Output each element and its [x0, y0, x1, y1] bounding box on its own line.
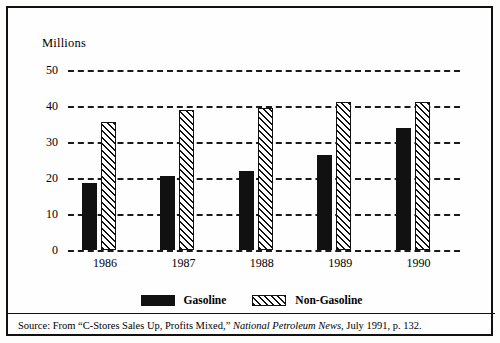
- x-axis-tick-label: 1986: [68, 256, 142, 271]
- source-note: Source: From “C-Stores Sales Up, Profits…: [18, 320, 422, 331]
- bar-non-gasoline-1989: [336, 102, 351, 250]
- source-divider: [8, 313, 495, 314]
- y-axis-tick-label: 50: [24, 64, 58, 76]
- legend-label-non-gasoline: Non-Gasoline: [295, 294, 362, 306]
- bar-non-gasoline-1988: [258, 108, 273, 250]
- x-axis-tick-label: 1988: [225, 256, 299, 271]
- source-suffix: , July 1991, p. 132.: [341, 320, 422, 331]
- bar-group: [303, 70, 377, 250]
- bar-gasoline-1987: [160, 176, 175, 250]
- bar-gasoline-1986: [82, 183, 97, 250]
- chart-figure: Millions 01020304050 1986198719881989199…: [0, 0, 500, 343]
- y-axis-title: Millions: [42, 36, 86, 51]
- y-axis-tick-label: 0: [24, 244, 58, 256]
- plot-area: 01020304050 19861987198819891990: [68, 70, 460, 250]
- bar-group: [146, 70, 220, 250]
- x-axis-tick-label: 1989: [303, 256, 377, 271]
- source-prefix: Source: From “C-Stores Sales Up, Profits…: [18, 320, 233, 331]
- bar-gasoline-1989: [317, 155, 332, 250]
- gridline: [68, 250, 460, 252]
- bar-group: [68, 70, 142, 250]
- legend-swatch-non-gasoline-icon: [252, 295, 286, 306]
- y-axis-tick-label: 40: [24, 100, 58, 112]
- legend-item-gasoline: Gasoline: [141, 294, 227, 306]
- chart-legend: Gasoline Non-Gasoline: [8, 294, 495, 306]
- legend-swatch-gasoline-icon: [141, 295, 175, 306]
- bar-non-gasoline-1990: [415, 102, 430, 250]
- bar-gasoline-1988: [239, 171, 254, 250]
- y-axis-tick-label: 10: [24, 208, 58, 220]
- x-axis-tick-label: 1990: [382, 256, 456, 271]
- bar-non-gasoline-1986: [101, 122, 116, 250]
- legend-label-gasoline: Gasoline: [184, 294, 227, 306]
- bar-groups: [68, 70, 460, 250]
- bar-group: [382, 70, 456, 250]
- legend-item-non-gasoline: Non-Gasoline: [252, 294, 362, 306]
- x-axis-tick-label: 1987: [146, 256, 220, 271]
- bar-gasoline-1990: [396, 128, 411, 250]
- figure-border: Millions 01020304050 1986198719881989199…: [6, 6, 493, 336]
- bar-non-gasoline-1987: [179, 110, 194, 250]
- bar-group: [225, 70, 299, 250]
- y-axis-tick-label: 20: [24, 172, 58, 184]
- y-axis-tick-label: 30: [24, 136, 58, 148]
- source-publication: National Petroleum News: [233, 320, 341, 331]
